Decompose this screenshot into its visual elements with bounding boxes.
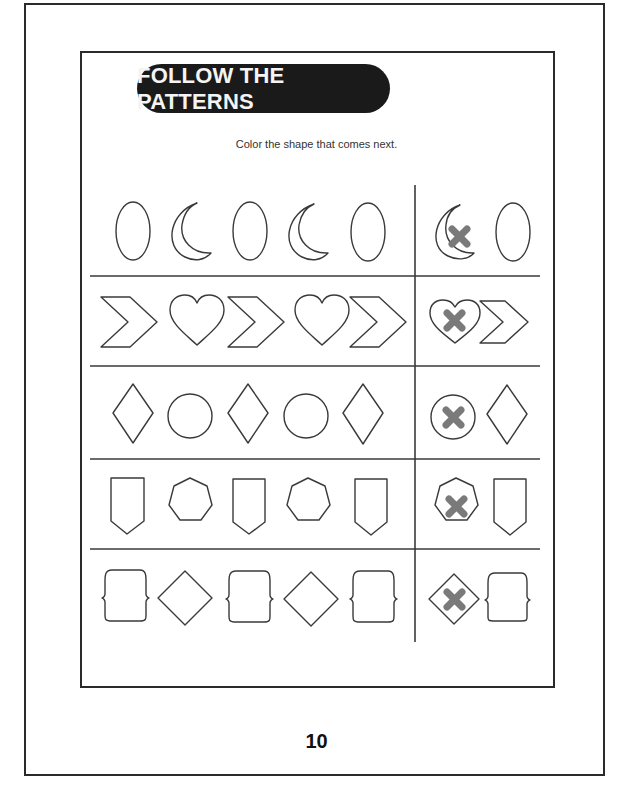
oval-shape[interactable]	[233, 202, 267, 260]
heart-shape[interactable]	[170, 295, 224, 345]
bracket-square-shape[interactable]	[350, 571, 397, 622]
chevron-answer-choice[interactable]	[480, 301, 528, 343]
crescent-shape[interactable]	[289, 204, 328, 260]
oval-shape[interactable]	[116, 202, 150, 260]
heptagon-shape[interactable]	[287, 478, 330, 520]
oval-shape[interactable]	[351, 203, 385, 261]
bracket-square-answer-choice[interactable]	[485, 573, 530, 621]
bracket-square-shape[interactable]	[226, 571, 273, 622]
pentagon-banner-answer-choice[interactable]	[494, 479, 526, 535]
pattern-row-2	[101, 295, 528, 347]
rhombus-shape[interactable]	[228, 384, 268, 443]
pentagon-banner-shape[interactable]	[111, 478, 144, 534]
diamond-shape[interactable]	[284, 572, 338, 626]
pattern-row-5	[102, 570, 530, 626]
oval-answer-choice[interactable]	[496, 203, 530, 261]
page-number: 10	[0, 730, 633, 753]
rhombus-shape[interactable]	[113, 384, 153, 443]
heptagon-shape[interactable]	[169, 478, 212, 520]
rhombus-shape[interactable]	[343, 384, 383, 444]
x-mark-icon	[447, 313, 462, 328]
pattern-row-3	[113, 384, 527, 444]
pattern-grid	[0, 0, 633, 807]
x-mark-icon	[446, 410, 461, 425]
chevron-shape[interactable]	[228, 297, 284, 347]
answer-marks	[446, 229, 467, 607]
x-mark-icon	[447, 592, 462, 607]
circle-shape[interactable]	[284, 394, 328, 438]
heptagon-answer-choice[interactable]	[435, 478, 478, 520]
circle-shape[interactable]	[168, 394, 212, 438]
rhombus-answer-choice[interactable]	[487, 385, 527, 444]
chevron-shape[interactable]	[350, 297, 406, 347]
x-mark-icon	[449, 499, 464, 514]
pentagon-banner-shape[interactable]	[233, 479, 265, 534]
pattern-row-4	[111, 478, 526, 535]
bracket-square-shape[interactable]	[102, 570, 149, 621]
heart-shape[interactable]	[295, 295, 349, 345]
crescent-shape[interactable]	[172, 203, 211, 260]
x-mark-icon	[452, 229, 467, 244]
pentagon-banner-shape[interactable]	[355, 479, 387, 535]
chevron-shape[interactable]	[101, 297, 157, 347]
diamond-shape[interactable]	[158, 571, 212, 625]
